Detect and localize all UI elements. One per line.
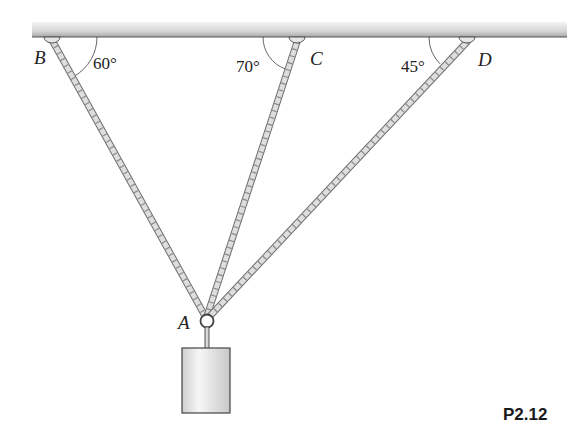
label-angle-c: 70°: [236, 58, 260, 75]
ropes: [52, 40, 467, 316]
weight: [182, 348, 230, 413]
label-point-d: D: [478, 50, 492, 69]
label-point-a: A: [178, 313, 190, 332]
ring-a: [201, 315, 214, 328]
anchor-c: [289, 37, 305, 43]
anchor-b: [44, 37, 60, 43]
anchor-d: [459, 37, 475, 43]
ceiling: [32, 22, 567, 37]
angle-arc-d: [429, 37, 440, 64]
label-point-b: B: [34, 48, 46, 67]
label-angle-d: 45°: [401, 58, 425, 75]
label-point-c: C: [310, 49, 323, 68]
hanger-rod: [205, 327, 209, 349]
label-angle-b: 60°: [93, 55, 117, 72]
angle-arc-c: [263, 37, 285, 69]
anchors: [44, 37, 475, 43]
problem-number: P2.12: [503, 405, 547, 425]
rope-ab: [52, 40, 205, 316]
